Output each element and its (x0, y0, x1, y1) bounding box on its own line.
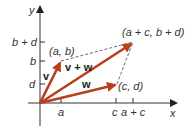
vector-diagram: y x b + d b d a c a + c (a, b) (c, d) (a… (0, 0, 194, 129)
y-tick-label-d: d (29, 78, 36, 90)
x-tick-label-ac: a + c (121, 106, 146, 118)
y-axis-label: y (28, 4, 36, 16)
vector-label-v: v (43, 70, 50, 82)
vector-label-w: w (81, 78, 91, 90)
vector-w (40, 85, 115, 103)
point-label-cd: (c, d) (118, 80, 143, 92)
point-label-ab: (a, b) (49, 45, 75, 57)
vector-label-sum: v + w (65, 61, 93, 73)
x-tick-label-a: a (58, 106, 64, 118)
x-axis-label: x (169, 107, 176, 119)
x-tick-label-c: c (112, 106, 118, 118)
y-tick-label-bd: b + d (12, 36, 38, 48)
point-label-sum: (a + c, b + d) (122, 26, 185, 38)
y-tick-label-b: b (30, 55, 36, 67)
